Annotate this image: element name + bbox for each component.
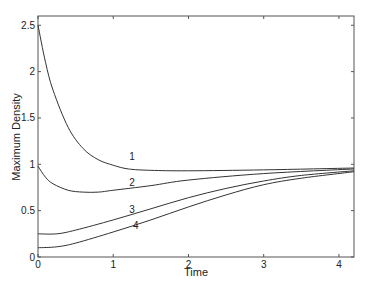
x-tick-label: 1 bbox=[110, 259, 116, 270]
series-line-2 bbox=[38, 166, 354, 192]
curve-label: 1 bbox=[129, 151, 135, 162]
data-curves bbox=[38, 25, 354, 247]
series-line-4 bbox=[38, 172, 354, 248]
curve-label: 2 bbox=[129, 177, 135, 188]
curve-label: 4 bbox=[133, 220, 139, 231]
curve-label: 3 bbox=[129, 204, 135, 215]
series-line-1 bbox=[38, 25, 354, 171]
y-tick-label: 2.5 bbox=[21, 20, 35, 31]
y-axis-label: Maximum Density bbox=[10, 93, 22, 181]
y-tick-label: 2 bbox=[29, 66, 35, 77]
plot-frame bbox=[38, 16, 354, 257]
series-line-3 bbox=[38, 171, 354, 234]
x-tick-label: 0 bbox=[35, 259, 41, 270]
y-tick-label: 0.5 bbox=[21, 205, 35, 216]
curve-labels: 1234 bbox=[129, 151, 139, 232]
plot-axes: 0123400.511.522.5 bbox=[21, 16, 354, 270]
y-tick-label: 0 bbox=[29, 252, 35, 263]
y-tick-label: 1 bbox=[29, 159, 35, 170]
x-tick-label: 4 bbox=[336, 259, 342, 270]
line-chart: 0123400.511.522.5 1234 Time Maximum Dens… bbox=[0, 0, 365, 286]
x-axis-label: Time bbox=[184, 266, 208, 278]
x-tick-label: 3 bbox=[261, 259, 267, 270]
y-tick-label: 1.5 bbox=[21, 112, 35, 123]
